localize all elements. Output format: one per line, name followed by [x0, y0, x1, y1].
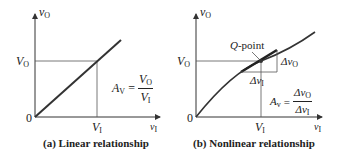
panel-b-delta-vo-label: ΔvO [281, 56, 298, 69]
panel-b-x-axis-label: vI [314, 122, 321, 134]
panel-b-q-point-label: Q-point [230, 40, 264, 51]
panel-b-vi-tick: VI [255, 121, 265, 135]
panel-b-origin: 0 [187, 112, 193, 124]
panel-b-caption: (b) Nonlinear relationship [193, 137, 315, 149]
transfer-characteristic-diagram: vO VO 0 VI vI AV = VOVI (a) Linear relat… [0, 0, 342, 158]
panel-b-vo-tick: VO [177, 55, 190, 69]
panel-a-x-axis-label: vI [150, 122, 157, 134]
panel-a-vo-tick: VO [16, 55, 29, 69]
panel-a-linear-line [35, 40, 121, 117]
panel-b-gain-formula: Av = ΔvOΔvI [270, 86, 312, 117]
panel-b-q-leader [252, 52, 259, 59]
diagram-graphics [0, 0, 342, 158]
panel-a-y-axis-label: vO [39, 6, 50, 20]
panel-a-gain-formula: AV = VOVI [112, 72, 153, 105]
panel-b-y-axis-label: vO [200, 6, 211, 20]
panel-a-origin: 0 [26, 112, 32, 124]
panel-b-delta-vi-label: ΔvI [250, 75, 264, 88]
panel-b-q-point-marker [259, 59, 263, 63]
panel-a-caption: (a) Linear relationship [43, 137, 149, 149]
panel-a-vi-tick: VI [92, 121, 102, 135]
